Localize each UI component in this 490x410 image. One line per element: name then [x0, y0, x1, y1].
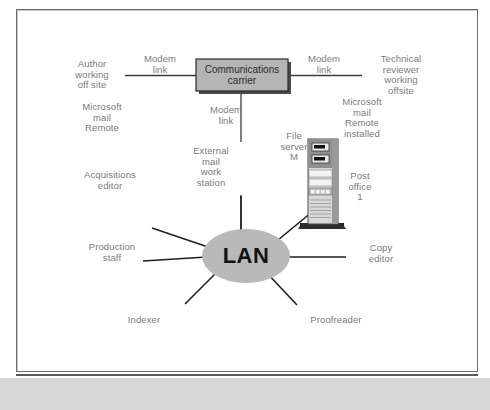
tower-side-shade: [332, 139, 338, 224]
indexer-label: Indexer: [113, 315, 175, 326]
tower-button-3[interactable]: [321, 190, 325, 194]
modem-link-right-label: Modem link: [294, 54, 354, 75]
spoke-production-staff: [152, 228, 211, 248]
acquisitions-editor-label: Acquisitions editor: [70, 170, 150, 191]
spoke-left-horizontal: [143, 257, 207, 261]
author-working-off-site-label: Author working off site: [58, 59, 126, 91]
microsoft-mail-remote-installed-label: Microsoft mail Remote installed: [327, 97, 397, 139]
production-staff-label: Production staff: [74, 242, 150, 263]
tower-panel-2: [309, 179, 332, 186]
tower-panel-1: [309, 170, 332, 177]
proofreader-label: Proofreader: [296, 315, 376, 326]
tower-button-1[interactable]: [311, 190, 315, 194]
modem-link-down-label: Modem link: [196, 105, 256, 126]
external-mail-work-station-label: External mail work station: [178, 146, 244, 188]
tower-button-4[interactable]: [326, 190, 330, 194]
file-server-m-label: File server M: [272, 131, 316, 163]
microsoft-mail-remote-left-label: Microsoft mail Remote: [68, 102, 136, 134]
modem-link-left-label: Modem link: [130, 54, 190, 75]
copy-editor-label: Copy editor: [350, 243, 412, 264]
lan-node-label: LAN: [206, 243, 286, 269]
tower-button-2[interactable]: [316, 190, 320, 194]
spoke-indexer: [185, 272, 217, 304]
post-office-1-label: Post office 1: [339, 171, 381, 203]
technical-reviewer-label: Technical reviewer working offsite: [367, 54, 435, 96]
communications-carrier-label: Communications carrier: [196, 64, 288, 86]
diagram-page: Communications carrier LAN Modem link Mo…: [0, 0, 490, 410]
